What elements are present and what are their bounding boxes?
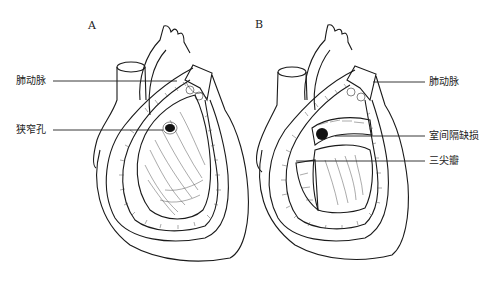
hatching-a xyxy=(145,112,205,215)
label-pulmonary-artery-a: 肺动脉 xyxy=(16,75,46,87)
stenotic-orifice-a xyxy=(165,124,175,132)
cavity-a xyxy=(137,95,210,219)
svc-b xyxy=(278,67,306,77)
label-vsd-b: 室间隔缺损 xyxy=(429,130,479,142)
panel-label-b: B xyxy=(255,18,263,31)
tricuspid-valve-b xyxy=(313,145,372,213)
heart-outer-b xyxy=(260,76,409,259)
hatching-b xyxy=(300,120,364,205)
label-stenotic-orifice-a: 狭窄孔 xyxy=(16,124,46,136)
aorta-a xyxy=(140,26,190,100)
vsd-b xyxy=(316,128,328,140)
label-tricuspid-valve-b: 三尖瓣 xyxy=(429,155,459,167)
rim-texture-b xyxy=(281,84,382,229)
heart-a xyxy=(53,26,248,261)
pulmonary-artery-b xyxy=(347,66,376,100)
svc-a xyxy=(117,62,145,72)
panel-label-a: A xyxy=(88,19,96,32)
heart-b xyxy=(257,25,425,260)
label-pulmonary-artery-b: 肺动脉 xyxy=(429,76,459,88)
heart-outer-a xyxy=(97,75,249,261)
heart-illustration xyxy=(0,0,500,282)
